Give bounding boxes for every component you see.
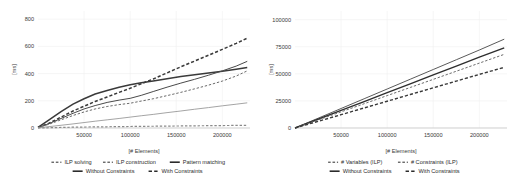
legend-label: Pattern matching [183,159,225,165]
y-tick-label: 75000 [275,44,291,50]
y-axis-title: [ms] [11,64,17,75]
series-line [295,67,504,128]
right-chart-canvas: 0250005000075000100000500001000001500002… [257,0,514,181]
chart-panel-right: 0250005000075000100000500001000001500002… [257,0,514,181]
x-tick-label: 150000 [424,132,443,138]
x-axis-title: [# Elements] [385,148,417,154]
x-tick-label: 200000 [470,132,489,138]
legend-label: # Constraints (ILP) [411,159,458,165]
series-line [38,71,247,128]
x-tick-label: 100000 [121,132,140,138]
y-tick-label: 100000 [272,17,291,23]
chart-panel-left: 020040060080050000100000150000200000[# E… [0,0,257,181]
x-tick-label: 50000 [333,132,349,138]
y-tick-label: 0 [288,125,291,131]
legend-label: With Constraints [419,168,460,174]
series-line [295,48,504,128]
x-tick-label: 150000 [167,132,186,138]
figure-container: 020040060080050000100000150000200000[# E… [0,0,514,181]
y-tick-label: 200 [25,98,34,104]
y-tick-label: 400 [25,71,34,77]
x-tick-label: 200000 [213,132,232,138]
y-tick-label: 25000 [275,98,291,104]
y-tick-label: 800 [25,16,34,22]
series-line [38,67,247,127]
series-line [38,125,247,128]
legend-label: # Variables (ILP) [341,159,382,165]
legend-label: Without Constraints [343,168,392,174]
legend-label: Without Constraints [86,168,135,174]
y-tick-label: 50000 [275,71,291,77]
series-line [295,39,504,128]
y-tick-label: 0 [31,125,34,131]
legend-label: ILP construction [116,159,156,165]
left-chart-svg: 020040060080050000100000150000200000[# E… [0,0,257,181]
x-axis-title: [# Elements] [128,148,160,154]
right-chart-svg: 0250005000075000100000500001000001500002… [257,0,514,181]
left-chart-canvas: 020040060080050000100000150000200000[# E… [0,0,257,181]
legend-label: With Constraints [162,168,203,174]
x-tick-label: 50000 [76,132,92,138]
x-tick-label: 100000 [378,132,397,138]
legend-label: ILP solving [64,159,91,165]
series-line [295,54,504,128]
y-axis-title: [ms] [268,64,274,75]
y-tick-label: 600 [25,43,34,49]
